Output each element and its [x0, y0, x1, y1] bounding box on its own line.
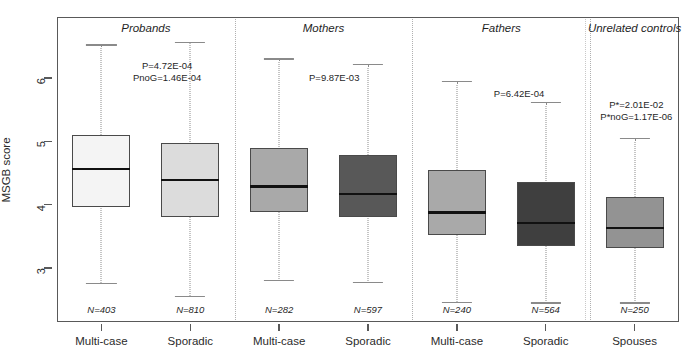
whisker-cap-lower: [442, 302, 472, 303]
whisker-cap-upper: [442, 81, 472, 82]
panel-separator: [412, 19, 413, 320]
x-tick-label: Multi-case: [431, 335, 483, 347]
x-tick-mark: [367, 324, 369, 331]
panel-separator-secondary: [585, 19, 586, 320]
median-line: [517, 222, 575, 225]
y-tick-label: 4: [35, 205, 47, 211]
p-value-annotation: P*=2.01E-02P*noG=1.17E-06: [600, 99, 672, 122]
panel-title: Unrelated controls: [588, 22, 681, 34]
y-axis-title: MSGB score: [0, 137, 12, 202]
y-tick-label: 3: [35, 268, 47, 274]
x-tick-label: Sporadic: [345, 335, 390, 347]
whisker-cap-upper: [86, 44, 116, 45]
y-axis: MSGB score 3456: [0, 0, 57, 362]
sample-size-label: N=403: [87, 304, 115, 315]
boxplot-figure: MSGB score 3456 Multi-caseSporadicMulti-…: [0, 0, 691, 362]
x-tick-mark: [278, 324, 280, 331]
p-value-text: PnoG=1.46E-04: [133, 72, 201, 83]
p-value-text: P=6.42E-04: [494, 88, 544, 99]
whisker-cap-lower: [86, 283, 116, 284]
sample-size-label: N=810: [176, 304, 204, 315]
p-value-text: P=4.72E-04: [142, 60, 192, 71]
panel-title: Probands: [121, 22, 170, 34]
x-tick-label: Multi-case: [75, 335, 127, 347]
p-value-text: P*=2.01E-02: [609, 99, 663, 110]
box: [428, 170, 486, 235]
x-tick-mark: [190, 324, 192, 331]
x-tick-mark: [545, 324, 547, 331]
whisker-cap-upper: [619, 138, 649, 139]
sample-size-label: N=250: [620, 304, 648, 315]
sample-size-label: N=282: [265, 304, 293, 315]
whisker-cap-lower: [175, 296, 205, 297]
box: [339, 155, 397, 217]
whisker-cap-lower: [353, 282, 383, 283]
whisker-cap-upper: [353, 64, 383, 65]
box: [250, 148, 308, 212]
p-value-text: P*noG=1.17E-06: [600, 111, 672, 122]
median-line: [428, 211, 486, 214]
x-tick-label: Spouses: [612, 335, 657, 347]
median-line: [339, 193, 397, 196]
box: [517, 182, 575, 247]
box: [606, 197, 664, 248]
panel-title: Fathers: [482, 22, 521, 34]
x-axis: Multi-caseSporadicMulti-caseSporadicMult…: [0, 322, 691, 362]
x-tick-label: Sporadic: [168, 335, 213, 347]
sample-size-label: N=564: [532, 304, 560, 315]
panel-title: Mothers: [303, 22, 345, 34]
x-tick-mark: [101, 324, 103, 331]
x-tick-label: Sporadic: [523, 335, 568, 347]
whisker-cap-upper: [531, 102, 561, 103]
median-line: [250, 185, 308, 188]
p-value-annotation: P=9.87E-03: [309, 72, 359, 84]
median-line: [606, 227, 664, 230]
whisker-cap-upper: [175, 42, 205, 43]
panel-separator: [590, 19, 591, 320]
y-tick-label: 6: [35, 78, 47, 84]
box: [72, 135, 130, 207]
x-tick-mark: [456, 324, 458, 331]
panel-separator: [235, 19, 236, 320]
p-value-annotation: P=4.72E-04PnoG=1.46E-04: [133, 60, 201, 83]
p-value-annotation: P=6.42E-04: [494, 88, 544, 100]
whisker-cap-upper: [264, 58, 294, 59]
median-line: [161, 179, 219, 182]
sample-size-label: N=240: [443, 304, 471, 315]
x-tick-label: Multi-case: [253, 335, 305, 347]
whisker-cap-lower: [264, 280, 294, 281]
p-value-text: P=9.87E-03: [309, 72, 359, 83]
y-tick-label: 5: [35, 141, 47, 147]
median-line: [72, 168, 130, 171]
x-tick-mark: [634, 324, 636, 331]
sample-size-label: N=597: [354, 304, 382, 315]
